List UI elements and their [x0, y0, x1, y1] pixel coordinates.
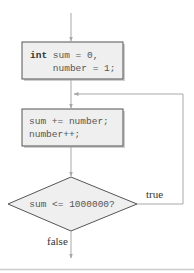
- body-box: sum += number; number++;: [22, 109, 125, 148]
- body-line-1: sum += number;: [29, 116, 109, 127]
- init-line-2: number = 1;: [30, 63, 116, 74]
- true-label: true: [146, 188, 163, 200]
- false-label: false: [47, 235, 68, 247]
- condition-diamond: sum <= 1000000?: [8, 177, 137, 231]
- body-line-2: number++;: [29, 129, 80, 140]
- flowchart: int sum = 0, number = 1; sum += number; …: [0, 0, 194, 273]
- init-line-1: int sum = 0,: [30, 50, 98, 61]
- init-box: int sum = 0, number = 1;: [22, 42, 125, 81]
- condition-text: sum <= 1000000?: [29, 199, 115, 210]
